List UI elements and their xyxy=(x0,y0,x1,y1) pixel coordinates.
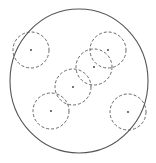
point-marker-p3 xyxy=(93,66,95,68)
neighborhood-circles xyxy=(13,32,146,130)
point-marker-p5 xyxy=(50,110,52,112)
point-marker-p4 xyxy=(72,86,74,88)
point-marker-p6 xyxy=(127,111,129,113)
boundary-circle xyxy=(10,9,148,153)
point-marker-p1 xyxy=(30,49,32,51)
point-marker-p2 xyxy=(107,49,109,51)
region-diagram xyxy=(0,0,156,163)
